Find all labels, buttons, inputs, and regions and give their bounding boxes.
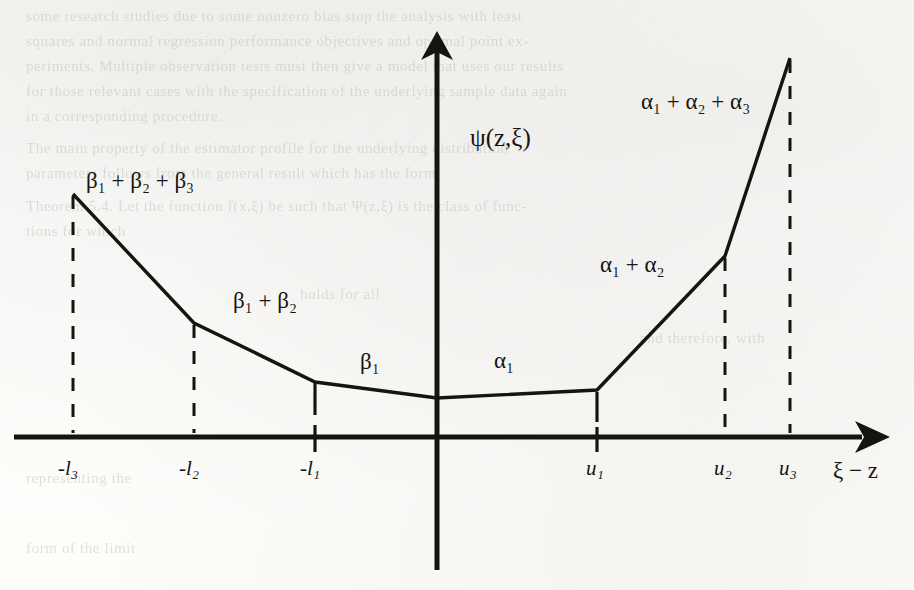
x-axis [14,421,890,453]
segment-label-alpha-12: α₁ + α₂ [600,252,665,278]
function-label: ψ(z,ξ) [470,124,531,152]
dropline-group [73,60,790,433]
tick-label-u2: u₂ [714,456,732,481]
tick-label-l1: -l₁ [300,456,320,481]
segment-label-beta-12: β₁ + β₂ [233,288,297,314]
segment-label-beta-123: β₁ + β₂ + β₃ [86,168,194,194]
segment-label-alpha-1: α₁ [494,348,514,374]
y-axis [421,31,453,570]
tick-label-u3: u₃ [779,456,797,481]
x-axis-label: ξ − z [833,458,878,484]
tick-label-l3: -l₃ [58,456,78,481]
tick-label-l2: -l₂ [179,456,199,481]
tick-label-u1: u₁ [586,456,604,481]
figure-container: some research studies due to some nonzer… [0,0,914,590]
segment-label-beta-1: β₁ [360,349,380,375]
segment-label-alpha-123: α₁ + α₂ + α₃ [641,89,750,115]
plot-canvas [0,0,914,590]
